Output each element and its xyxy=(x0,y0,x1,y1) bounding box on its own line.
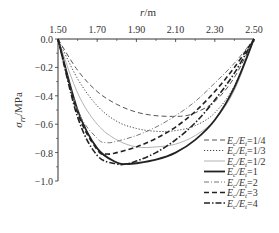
x-tick-label: 1.90 xyxy=(128,24,146,35)
x-tick-label: 2.30 xyxy=(206,24,224,35)
series-line-7 xyxy=(58,39,254,165)
legend-label: Ec/Et=4 xyxy=(226,198,258,211)
y-tick-label: −0.4 xyxy=(35,91,53,102)
y-tick-label: −1.0 xyxy=(35,176,53,187)
y-tick-label: −0.6 xyxy=(35,119,53,130)
x-tick-label: 1.70 xyxy=(88,24,106,35)
y-tick-label: 0.0 xyxy=(41,34,54,45)
y-axis-title: σrr/MPa xyxy=(12,92,27,128)
stress-chart: 1.501.701.902.102.302.50 0.0−0.2−0.4−0.6… xyxy=(0,0,279,233)
y-tick-label: −0.2 xyxy=(35,62,53,73)
y-axis-ticks: 0.0−0.2−0.4−0.6−0.8−1.0 xyxy=(35,34,58,187)
series-line-5 xyxy=(58,39,254,143)
x-axis-title: r/m xyxy=(140,6,156,18)
x-tick-label: 2.50 xyxy=(245,24,263,35)
data-series xyxy=(58,39,254,165)
y-tick-label: −0.8 xyxy=(35,148,53,159)
x-tick-label: 2.10 xyxy=(167,24,185,35)
legend: Ec/Et=1/4Ec/Et=1/3Ec/Et=1/2Ec/Et=1Ec/Et=… xyxy=(204,135,265,211)
series-line-4 xyxy=(58,39,254,164)
series-line-6 xyxy=(58,39,254,154)
series-line-2 xyxy=(58,39,254,131)
